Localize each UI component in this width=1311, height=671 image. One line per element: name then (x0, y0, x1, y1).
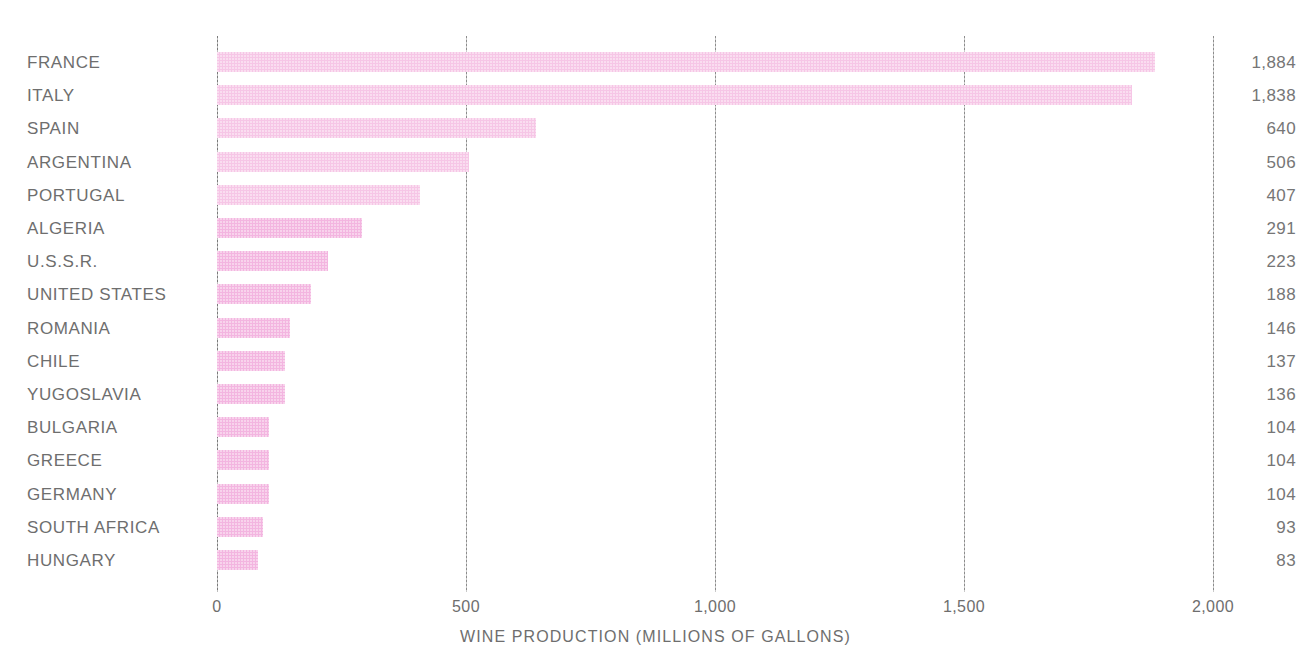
value-label: 1,838 (1176, 86, 1296, 106)
category-label: ITALY (27, 86, 75, 106)
category-label: ARGENTINA (27, 153, 132, 173)
value-label: 104 (1176, 418, 1296, 438)
value-label: 137 (1176, 352, 1296, 372)
value-label: 291 (1176, 219, 1296, 239)
bar-chart: FRANCEITALYSPAINARGENTINAPORTUGALALGERIA… (0, 0, 1311, 671)
bar (217, 85, 1132, 105)
category-label: ALGERIA (27, 219, 105, 239)
bar (217, 152, 469, 172)
value-label: 146 (1176, 319, 1296, 339)
bar (217, 450, 269, 470)
category-label: SOUTH AFRICA (27, 518, 160, 538)
category-label: BULGARIA (27, 418, 118, 438)
bar (217, 284, 311, 304)
category-label: SPAIN (27, 119, 80, 139)
value-label: 136 (1176, 385, 1296, 405)
category-label: FRANCE (27, 53, 101, 73)
value-label: 640 (1176, 119, 1296, 139)
x-axis-title: WINE PRODUCTION (MILLIONS OF GALLONS) (0, 628, 1311, 646)
value-label: 223 (1176, 252, 1296, 272)
bar (217, 484, 269, 504)
bar (217, 517, 263, 537)
gridline-1500 (964, 36, 965, 592)
bar (217, 52, 1155, 72)
x-tick-label: 1,000 (694, 598, 736, 616)
value-label: 188 (1176, 285, 1296, 305)
bar (217, 185, 420, 205)
x-tick-label: 1,500 (943, 598, 985, 616)
value-label: 104 (1176, 451, 1296, 471)
bar (217, 218, 362, 238)
x-tick-label: 500 (452, 598, 480, 616)
bar (217, 550, 258, 570)
category-label: UNITED STATES (27, 285, 166, 305)
value-label: 1,884 (1176, 53, 1296, 73)
x-tick-label: 2,000 (1192, 598, 1234, 616)
value-label: 506 (1176, 153, 1296, 173)
category-label: YUGOSLAVIA (27, 385, 141, 405)
category-label: GREECE (27, 451, 102, 471)
category-label: GERMANY (27, 485, 117, 505)
bar (217, 417, 269, 437)
bar (217, 384, 285, 404)
value-label: 93 (1176, 518, 1296, 538)
category-label: ROMANIA (27, 319, 111, 339)
category-label: HUNGARY (27, 551, 116, 571)
category-label: PORTUGAL (27, 186, 125, 206)
value-label: 104 (1176, 485, 1296, 505)
value-label: 407 (1176, 186, 1296, 206)
chart-page: FRANCEITALYSPAINARGENTINAPORTUGALALGERIA… (0, 0, 1311, 671)
x-tick-label: 0 (212, 598, 221, 616)
bar (217, 318, 290, 338)
value-label: 83 (1176, 551, 1296, 571)
category-label: U.S.S.R. (27, 252, 98, 272)
gridline-1000 (715, 36, 716, 592)
bar (217, 118, 536, 138)
bar (217, 351, 285, 371)
bar (217, 251, 328, 271)
category-label: CHILE (27, 352, 80, 372)
